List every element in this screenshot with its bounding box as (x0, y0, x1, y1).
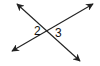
line-a (17, 4, 80, 61)
intersecting-lines-diagram: 2 3 (0, 0, 100, 66)
angle-3-label: 3 (55, 26, 62, 40)
angle-2-label: 2 (34, 24, 41, 38)
